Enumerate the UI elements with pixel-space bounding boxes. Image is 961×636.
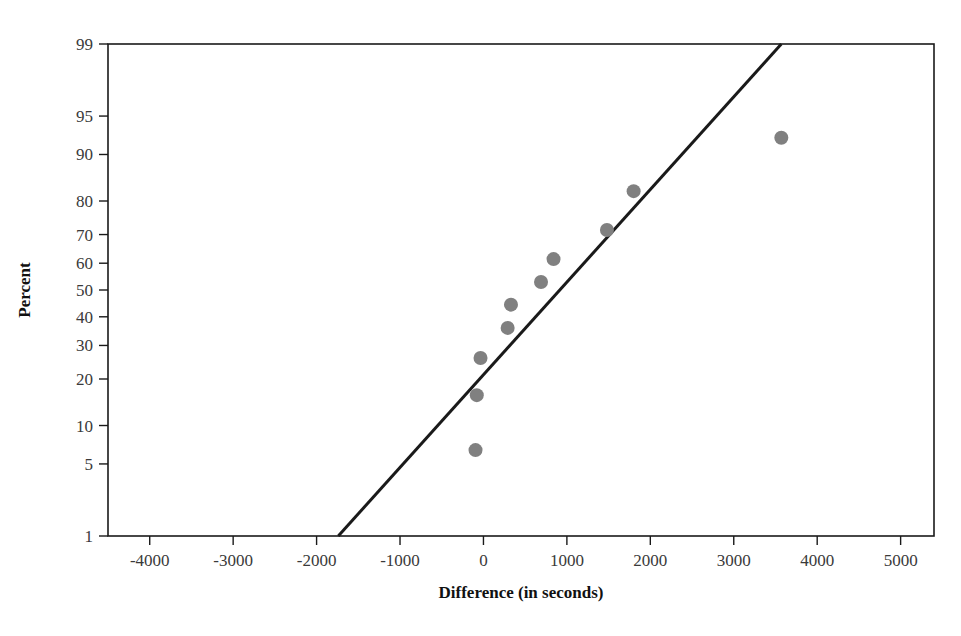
- plot-frame: [108, 44, 934, 536]
- x-tick-label: -2000: [297, 551, 337, 570]
- y-tick-label: 20: [76, 370, 93, 389]
- y-tick-label: 40: [76, 308, 93, 327]
- x-tick-label: -3000: [213, 551, 253, 570]
- data-point: [469, 443, 483, 457]
- data-point: [627, 184, 641, 198]
- y-tick-label: 30: [76, 336, 93, 355]
- y-axis-title: Percent: [15, 262, 34, 318]
- data-point: [504, 298, 518, 312]
- chart-figure: 151020304050607080909599-4000-3000-2000-…: [0, 0, 961, 636]
- x-axis-title: Difference (in seconds): [439, 583, 604, 602]
- x-tick-label: -4000: [130, 551, 170, 570]
- data-point: [600, 223, 614, 237]
- y-tick-label: 10: [76, 417, 93, 436]
- data-point: [501, 321, 515, 335]
- data-point: [470, 388, 484, 402]
- y-tick-label: 90: [76, 145, 93, 164]
- data-point: [547, 252, 561, 266]
- y-tick-label: 60: [76, 254, 93, 273]
- y-tick-label: 95: [76, 107, 93, 126]
- y-tick-label: 1: [85, 527, 94, 546]
- probability-plot-svg: 151020304050607080909599-4000-3000-2000-…: [0, 0, 961, 636]
- data-point: [474, 351, 488, 365]
- x-tick-label: 5000: [884, 551, 918, 570]
- x-tick-label: -1000: [380, 551, 420, 570]
- y-tick-label: 80: [76, 192, 93, 211]
- data-point: [534, 275, 548, 289]
- y-tick-label: 70: [76, 226, 93, 245]
- y-tick-label: 99: [76, 35, 93, 54]
- x-tick-label: 0: [479, 551, 488, 570]
- data-point: [774, 131, 788, 145]
- x-tick-label: 2000: [633, 551, 667, 570]
- x-tick-label: 4000: [800, 551, 834, 570]
- x-tick-label: 3000: [717, 551, 751, 570]
- x-tick-label: 1000: [550, 551, 584, 570]
- reference-fit-line: [338, 44, 781, 536]
- y-tick-label: 5: [85, 455, 94, 474]
- y-tick-label: 50: [76, 281, 93, 300]
